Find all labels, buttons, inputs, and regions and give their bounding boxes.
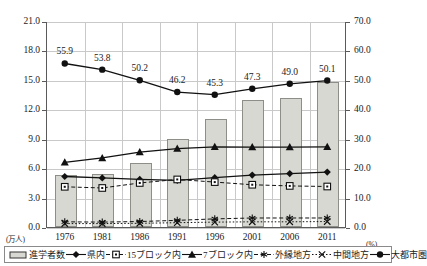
left-axis-unit-label: (万人)	[6, 233, 25, 244]
data-point-circle	[62, 60, 68, 66]
left-axis-tick-label: 21.0	[0, 17, 40, 27]
right-axis-tick-mark	[346, 140, 350, 141]
legend-marker-cross-icon	[312, 249, 332, 260]
x-axis-tick-label: 1996	[195, 232, 235, 242]
legend-item[interactable]: 外縁地方	[254, 248, 311, 261]
data-point-diamond	[61, 173, 68, 180]
right-axis-tick-label: 60.0	[354, 46, 394, 56]
legend-marker-diamond-icon	[66, 249, 86, 260]
legend-label: 15ブロック内	[127, 248, 181, 261]
x-axis-tick-label: 2006	[270, 232, 310, 242]
right-axis-tick-label: 30.0	[354, 135, 394, 145]
left-axis-tick-label: 18.0	[0, 46, 40, 56]
legend-label: 中間地方	[333, 248, 369, 261]
right-axis-tick-label: 20.0	[354, 164, 394, 174]
legend-marker-square-icon	[106, 249, 126, 260]
legend-item[interactable]: 進学者数	[8, 248, 65, 261]
data-point-circle	[249, 86, 255, 92]
x-axis-tick-label: 1991	[157, 232, 197, 242]
left-axis-tick-mark	[42, 51, 46, 52]
data-label: 50.2	[122, 63, 158, 73]
data-point-circle	[287, 81, 293, 87]
data-point-circle	[137, 77, 143, 83]
data-point-square	[174, 176, 181, 183]
legend-item[interactable]: 15ブロック内	[106, 248, 181, 261]
left-axis-tick-mark	[42, 228, 46, 229]
right-axis-tick-mark	[346, 169, 350, 170]
right-axis-tick-mark	[346, 110, 350, 111]
x-axis-tick-label: 1976	[45, 232, 85, 242]
right-axis-tick-label: 50.0	[354, 76, 394, 86]
left-axis-tick-mark	[42, 169, 46, 170]
legend-label: 県内	[87, 248, 105, 261]
data-label: 45.3	[197, 78, 233, 88]
data-point-circle	[324, 77, 330, 83]
right-axis-tick-label: 40.0	[354, 105, 394, 115]
right-axis-tick-mark	[346, 228, 350, 229]
legend-marker-triangle-icon	[182, 249, 202, 260]
data-point-circle	[99, 66, 105, 72]
gridline	[47, 228, 345, 229]
legend-label: 大都市圏	[391, 248, 427, 261]
left-axis-tick-label: 3.0	[0, 194, 40, 204]
data-point-diamond	[324, 168, 331, 175]
data-label: 46.2	[159, 75, 195, 85]
data-point-square	[324, 183, 331, 190]
legend-item[interactable]: 中間地方	[312, 248, 369, 261]
data-point-square	[113, 251, 120, 258]
x-axis-tick-label: 2011	[307, 232, 347, 242]
data-label: 50.1	[309, 64, 345, 74]
left-axis-tick-label: 12.0	[0, 105, 40, 115]
left-axis-tick-mark	[42, 199, 46, 200]
legend-label: 外縁地方	[275, 248, 311, 261]
data-point-diamond	[99, 174, 106, 181]
right-axis-tick-mark	[346, 22, 350, 23]
data-point-square	[99, 185, 106, 192]
right-axis-tick-label: 10.0	[354, 194, 394, 204]
data-point-square	[249, 181, 256, 188]
data-label: 49.0	[272, 67, 308, 77]
data-point-diamond	[72, 251, 79, 258]
legend-item[interactable]: 7ブロック内	[182, 248, 253, 261]
right-axis-tick-mark	[346, 51, 350, 52]
legend-marker-circle-icon	[370, 249, 390, 260]
legend-item[interactable]: 大都市圏	[370, 248, 427, 261]
data-point-square	[286, 183, 293, 190]
data-point-square	[61, 184, 68, 191]
legend-label: 進学者数	[29, 248, 65, 261]
data-point-circle	[174, 89, 180, 95]
left-axis-tick-mark	[42, 110, 46, 111]
data-point-circle	[212, 91, 218, 97]
data-point-square	[211, 179, 218, 186]
right-axis-tick-label: 0.0	[354, 223, 394, 233]
chart-legend: 進学者数県内15ブロック内7ブロック内外縁地方中間地方大都市圏	[4, 246, 392, 263]
legend-marker-bar-icon	[8, 249, 28, 260]
left-axis-tick-mark	[42, 81, 46, 82]
data-point-diamond	[249, 171, 256, 178]
right-axis-tick-label: 70.0	[354, 17, 394, 27]
legend-marker-asterisk-icon	[254, 249, 274, 260]
right-axis-tick-mark	[346, 81, 350, 82]
left-axis-tick-mark	[42, 22, 46, 23]
x-axis-tick-label: 2001	[232, 232, 272, 242]
data-point-square	[136, 180, 143, 187]
legend-item[interactable]: 県内	[66, 248, 105, 261]
x-axis-tick-label: 1986	[120, 232, 160, 242]
data-point-circle	[376, 251, 382, 257]
right-axis-tick-mark	[346, 199, 350, 200]
left-axis-tick-label: 6.0	[0, 164, 40, 174]
left-axis-tick-label: 0.0	[0, 223, 40, 233]
x-axis-tick-label: 1981	[82, 232, 122, 242]
left-axis-tick-label: 15.0	[0, 76, 40, 86]
data-label: 53.8	[84, 53, 120, 63]
left-axis-tick-mark	[42, 140, 46, 141]
data-label: 47.3	[234, 72, 270, 82]
legend-label: 7ブロック内	[203, 248, 253, 261]
data-point-diamond	[286, 170, 293, 177]
left-axis-tick-label: 9.0	[0, 135, 40, 145]
data-label: 55.9	[47, 46, 83, 56]
